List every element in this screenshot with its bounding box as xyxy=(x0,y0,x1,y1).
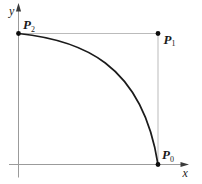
point-label-p1-subscript: 1 xyxy=(172,39,176,48)
point-dot-p1 xyxy=(156,31,161,36)
point-dot-p2 xyxy=(16,31,21,36)
bezier-figure-svg: y x P 2 P 1 P 0 xyxy=(0,0,202,184)
figure-canvas: y x P 2 P 1 P 0 xyxy=(0,0,202,184)
y-axis-label: y xyxy=(8,4,15,18)
point-label-p0-subscript: 0 xyxy=(170,155,174,164)
point-dot-p0 xyxy=(156,162,161,167)
point-label-p2-subscript: 2 xyxy=(31,25,35,34)
y-axis-arrowhead xyxy=(16,3,21,12)
bezier-curve xyxy=(19,34,159,165)
x-axis-label: x xyxy=(182,166,189,180)
